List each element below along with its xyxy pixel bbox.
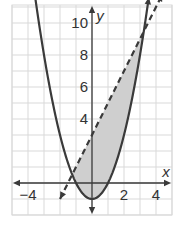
x-tick-label: 4 — [152, 186, 160, 203]
x-tick-label: 2 — [120, 186, 128, 203]
y-axis-label: y — [95, 7, 105, 24]
y-tick-label: 6 — [80, 78, 88, 95]
y-tick-label: 8 — [80, 46, 88, 63]
line-arrow-down-icon — [60, 191, 66, 199]
y-axis-arrow-down-icon — [89, 207, 95, 214]
y-tick-label: 4 — [80, 110, 88, 127]
y-tick-label: 10 — [71, 14, 88, 31]
graph-canvas: −42446810xy — [0, 0, 178, 225]
parabola-arrow-right-icon — [145, 0, 151, 5]
x-axis-arrow-right-icon — [164, 180, 171, 186]
x-axis-label: x — [161, 163, 170, 180]
x-tick-label: −4 — [19, 186, 36, 203]
